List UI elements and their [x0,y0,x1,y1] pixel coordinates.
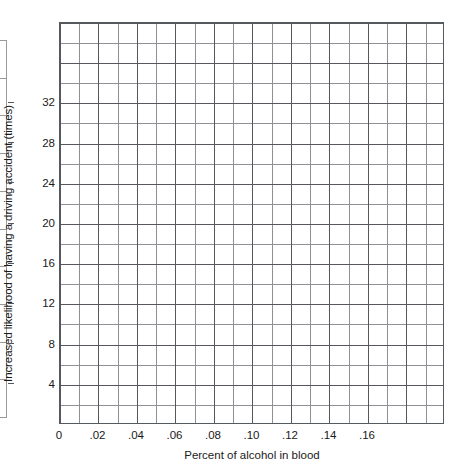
x-axis-tick-label: .02 [78,429,118,441]
y-axis-tick-label: 8 [15,338,55,350]
chart-figure: Increased likelihood of having a driving… [0,0,463,467]
y-axis-tick-mark [8,142,14,143]
y-axis-tick-mark [8,263,14,264]
x-axis-title: Percent of alcohol in blood [59,449,445,461]
x-axis-tick-label: .04 [116,429,156,441]
y-axis-tick-mark [8,102,14,103]
y-axis-tick-label: 32 [15,96,55,108]
x-axis-tick-label: .08 [193,429,233,441]
y-axis-tick-label: 28 [15,137,55,149]
y-axis-tick-label: 12 [15,297,55,309]
y-axis-tick-label: 20 [15,217,55,229]
x-axis-tick-label: .10 [232,429,272,441]
x-axis-tick-label: .16 [347,429,387,441]
y-axis-tick-mark [8,303,14,304]
x-axis-tick-label: .12 [270,429,310,441]
x-axis-tick-label: .14 [309,429,349,441]
y-axis-tick-label: 4 [15,378,55,390]
y-axis-tick-mark [8,223,14,224]
y-axis-tick-mark [8,383,14,384]
y-axis-title-text: Increased likelihood of having a driving… [2,105,14,382]
y-axis-tick-label: 24 [15,177,55,189]
y-axis-tick-label: 16 [15,257,55,269]
y-axis-title: Increased likelihood of having a driving… [0,0,16,467]
x-axis-tick-label: 0 [39,429,79,441]
y-axis-tick-mark [8,343,14,344]
plot-grid-area [59,22,444,424]
y-axis-tick-mark [8,182,14,183]
x-axis-tick-label: .06 [155,429,195,441]
